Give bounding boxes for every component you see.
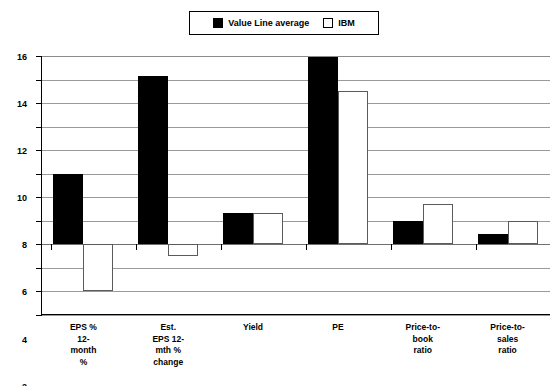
bar-value-line-average-5[interactable] [478, 234, 508, 245]
x-axis-label-1: Est. EPS 12- mth % change [126, 322, 211, 368]
bar-group-0 [41, 56, 126, 315]
y-tick--6: -6 [36, 315, 42, 316]
bar-value-line-average-2[interactable] [223, 213, 253, 245]
y-tick-label-6: 6 [22, 288, 27, 297]
legend-swatch-filled-icon [213, 18, 223, 28]
chart-legend: Value Line average IBM [189, 11, 379, 35]
bar-value-line-average-1[interactable] [138, 76, 168, 244]
y-tick-label-8: 8 [22, 241, 27, 250]
bar-chart-plot-area: 1614121086420-2-4-6 [41, 56, 550, 315]
bar-value-line-average-4[interactable] [393, 221, 423, 245]
bar-group-1 [126, 56, 211, 315]
bar-ibm-4[interactable] [423, 204, 453, 244]
x-axis-label-0: EPS % 12- month % [41, 322, 126, 368]
legend-entry-ibm: IBM [323, 18, 355, 28]
bar-ibm-1[interactable] [168, 244, 198, 256]
y-tick-label-2: 2 [22, 382, 27, 386]
bar-group-3 [296, 56, 381, 315]
y-tick-label-4: 4 [22, 335, 27, 344]
y-tick-label-16: 16 [17, 53, 27, 62]
x-axis-label-5: Price-to- sales ratio [465, 322, 550, 357]
gridline--6 [41, 315, 550, 316]
bar-ibm-3[interactable] [338, 91, 368, 244]
bar-value-line-average-0[interactable] [53, 174, 83, 245]
legend-entry-value-line-average: Value Line average [213, 18, 309, 28]
x-axis-label-2: Yield [211, 322, 296, 334]
y-tick-label-10: 10 [17, 194, 27, 203]
y-tick-label-14: 14 [17, 100, 27, 109]
bar-group-4 [380, 56, 465, 315]
x-axis-label-3: PE [296, 322, 381, 334]
x-axis-label-4: Price-to- book ratio [380, 322, 465, 357]
bar-group-2 [211, 56, 296, 315]
x-tick-5 [476, 244, 477, 250]
bar-ibm-2[interactable] [253, 213, 283, 245]
x-tick-2 [221, 244, 222, 250]
bar-ibm-0[interactable] [83, 244, 113, 291]
bar-ibm-5[interactable] [508, 221, 538, 245]
x-tick-0 [51, 244, 52, 250]
bar-group-5 [465, 56, 550, 315]
bar-value-line-average-3[interactable] [308, 57, 338, 244]
x-tick-4 [391, 244, 392, 250]
legend-label-ibm: IBM [338, 19, 355, 28]
x-tick-1 [136, 244, 137, 250]
y-tick-label-12: 12 [17, 147, 27, 156]
x-tick-3 [306, 244, 307, 250]
legend-swatch-hollow-icon [323, 18, 333, 28]
legend-label-value-line-average: Value Line average [228, 19, 309, 28]
